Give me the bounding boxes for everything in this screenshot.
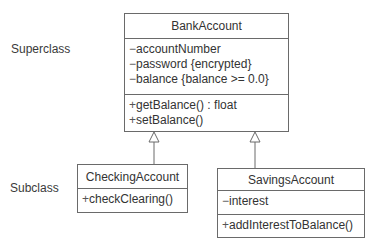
attribute-row: −accountNumber — [129, 42, 288, 57]
generalization-arrow-savings — [250, 132, 260, 168]
methods-section: +getBalance() : float +setBalance() — [125, 95, 288, 131]
methods-section: +checkClearing() — [78, 189, 187, 212]
public-visibility-icon: + — [222, 218, 229, 233]
attributes-section: −interest — [218, 191, 364, 215]
class-checking-account[interactable]: CheckingAccount +checkClearing() — [77, 164, 188, 213]
private-visibility-icon: − — [222, 194, 229, 209]
class-name: BankAccount — [125, 14, 288, 39]
class-name: CheckingAccount — [78, 165, 187, 189]
class-name-text: BankAccount — [171, 19, 242, 33]
attribute-row: −balance {balance >= 0.0} — [129, 72, 288, 87]
methods-section: +addInterestToBalance() — [218, 215, 364, 237]
public-visibility-icon: + — [82, 192, 89, 207]
private-visibility-icon: − — [129, 57, 136, 72]
class-name: SavingsAccount — [218, 169, 364, 191]
method-row: +checkClearing() — [82, 192, 187, 207]
private-visibility-icon: − — [129, 42, 136, 57]
class-savings-account[interactable]: SavingsAccount −interest +addInterestToB… — [217, 168, 365, 238]
method-row: +getBalance() : float — [129, 98, 288, 113]
attribute-row: −interest — [222, 194, 364, 209]
generalization-arrow-checking — [149, 132, 159, 165]
class-bank-account[interactable]: BankAccount −accountNumber −password {en… — [124, 13, 289, 132]
method-row: +setBalance() — [129, 113, 288, 128]
method-row: +addInterestToBalance() — [222, 218, 364, 233]
private-visibility-icon: − — [129, 72, 136, 87]
attributes-section: −accountNumber −password {encrypted} −ba… — [125, 39, 288, 95]
attribute-row: −password {encrypted} — [129, 57, 288, 72]
public-visibility-icon: + — [129, 113, 136, 128]
public-visibility-icon: + — [129, 98, 136, 113]
class-name-text: SavingsAccount — [248, 173, 334, 187]
class-name-text: CheckingAccount — [86, 170, 179, 184]
